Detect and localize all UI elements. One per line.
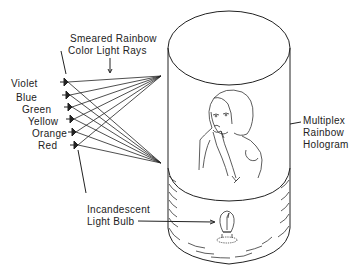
bottom-shading	[188, 237, 272, 258]
light-rays	[68, 76, 161, 163]
hologram-diagram: Smeared Rainbow Color Light Rays Violet …	[0, 0, 351, 268]
hologram-label-line2: Rainbow	[303, 127, 344, 138]
color-label-violet: Violet	[11, 78, 38, 89]
color-label-red: Red	[38, 140, 57, 151]
light-bulb-icon	[217, 211, 237, 243]
color-label-blue: Blue	[16, 92, 37, 103]
color-label-green: Green	[22, 104, 51, 115]
hologram-film-edge	[168, 168, 290, 201]
left-shading	[169, 176, 180, 240]
bulb-label-line2: Light Bulb	[87, 216, 134, 227]
rays-label-line1: Smeared Rainbow	[70, 33, 157, 44]
hologram-label-line1: Multiplex	[303, 115, 345, 126]
leader-lines	[61, 51, 301, 224]
right-shading	[278, 180, 289, 237]
eye-icon-blue	[62, 91, 70, 99]
rays-label-line2: Color Light Rays	[68, 45, 147, 56]
color-label-yellow: Yellow	[28, 116, 58, 127]
hologram-label-line3: Hologram	[303, 139, 349, 150]
eye-icon-orange	[68, 128, 76, 136]
color-label-orange: Orange	[32, 128, 67, 139]
eye-icon-red	[70, 141, 78, 149]
hologram-figure	[199, 90, 262, 183]
bulb-label-line1: Incandescent	[87, 204, 150, 215]
cylinder-top	[168, 11, 290, 85]
eye-icon-violet	[60, 78, 68, 86]
eye-icon-yellow	[66, 115, 74, 123]
eye-icon-green	[64, 103, 72, 111]
